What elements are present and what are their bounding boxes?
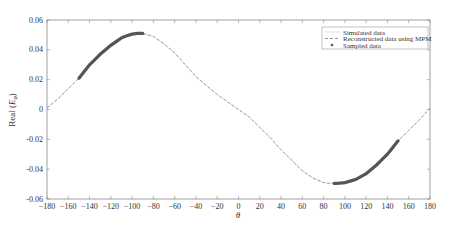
x-tick-label: −60 <box>168 202 181 211</box>
legend-sampled-label: Sampled data <box>343 42 382 50</box>
y-tick-label: 0.04 <box>29 45 43 54</box>
x-tick-label: 80 <box>320 202 328 211</box>
y-tick-label: -0.04 <box>26 165 43 174</box>
x-tick-label: 180 <box>424 202 436 211</box>
legend: Simulated data Reconstructed data using … <box>322 27 432 50</box>
y-tick-label: 0.06 <box>29 16 43 25</box>
x-tick-label: −20 <box>211 202 224 211</box>
svg-text:Real (Eφ): Real (Eφ) <box>7 93 18 127</box>
legend-sampled-marker <box>331 44 334 47</box>
x-tick-label: −100 <box>124 202 141 211</box>
x-tick-label: −120 <box>103 202 120 211</box>
x-tick-label: 140 <box>381 202 393 211</box>
x-tick-label: 160 <box>403 202 415 211</box>
x-tick-label: −40 <box>190 202 203 211</box>
x-tick-label: −180 <box>39 202 56 211</box>
chart: 0.060.040.020-0.02-0.04-0.06 −180−160−14… <box>0 0 454 233</box>
x-tick-label: 120 <box>360 202 372 211</box>
x-axis-label: θ <box>236 210 241 220</box>
x-tick-label: 20 <box>256 202 264 211</box>
y-tick-label: -0.02 <box>26 135 43 144</box>
x-tick-label: 40 <box>277 202 285 211</box>
x-tick-label: −80 <box>147 202 160 211</box>
y-tick-label: 0.02 <box>29 75 43 84</box>
x-tick-label: −160 <box>60 202 77 211</box>
y-axis-label: Real (Eφ) <box>7 93 18 127</box>
y-tick-label: 0 <box>39 105 43 114</box>
x-tick-label: −140 <box>81 202 98 211</box>
x-tick-label: 100 <box>339 202 351 211</box>
x-tick-label: 60 <box>298 202 306 211</box>
